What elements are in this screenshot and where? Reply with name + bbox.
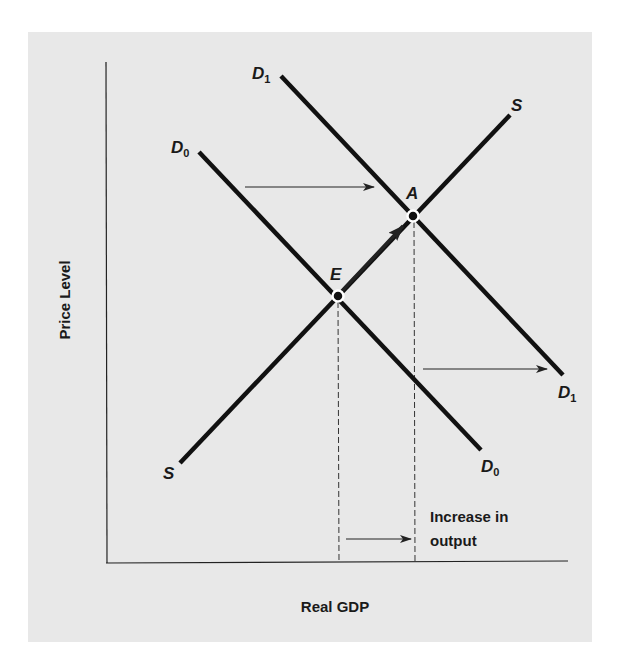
- label-d1-bottom: D1: [558, 383, 576, 404]
- x-axis: [106, 561, 568, 563]
- ad-as-diagram: D1 D0 S S D0 D1 E A Increase in output R…: [0, 0, 623, 668]
- increase-in-output-line2: output: [430, 532, 477, 549]
- dashed-line-e: [338, 302, 339, 562]
- label-point-a: A: [405, 184, 418, 203]
- label-s-top: S: [511, 96, 523, 115]
- demand-curve-d1: [281, 76, 563, 375]
- label-d0-bottom: D0: [481, 457, 499, 478]
- dashed-line-a: [414, 222, 415, 562]
- increase-in-output-line1: Increase in: [430, 508, 508, 525]
- label-d1-top: D1: [252, 64, 270, 85]
- point-e-marker: [333, 291, 344, 302]
- label-point-e: E: [330, 265, 342, 284]
- y-axis: [106, 62, 107, 563]
- movement-arrow-e-to-a: [341, 226, 403, 292]
- y-axis-title: Price Level: [56, 260, 73, 339]
- label-s-bottom: S: [163, 464, 175, 483]
- x-axis-title: Real GDP: [301, 598, 369, 615]
- label-d0-top: D0: [171, 138, 189, 159]
- point-a-marker: [408, 211, 419, 222]
